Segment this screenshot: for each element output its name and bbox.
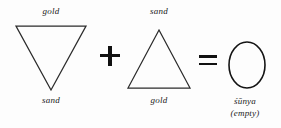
triangle-down-icon [0, 0, 100, 100]
equals-icon-bottom-bar [199, 63, 217, 66]
down-triangle-bottom-label: sand [16, 95, 86, 106]
triangle-up-icon [120, 0, 210, 100]
circle-bottom-label-secondary: (empty) [212, 108, 278, 119]
plus-icon-vertical [108, 46, 111, 66]
circle-icon [226, 36, 280, 94]
equals-icon-top-bar [199, 55, 217, 58]
diagram-canvas: gold sand sand gold śūnya (empty) [0, 0, 281, 128]
circle-bottom-label-primary: śūnya [212, 96, 278, 107]
up-triangle-bottom-label: gold [128, 95, 190, 106]
